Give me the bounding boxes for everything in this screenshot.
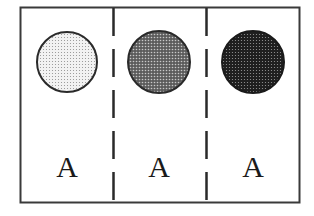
panel-2: A — [128, 31, 190, 183]
circle-dark-shade — [222, 31, 284, 93]
panel-3-label: A — [242, 150, 264, 183]
three-panel-diagram: A A A — [0, 0, 314, 216]
panel-1: A — [37, 32, 97, 183]
panel-2-label: A — [148, 150, 170, 183]
panel-1-label: A — [56, 150, 78, 183]
circle-light-shade — [37, 32, 97, 92]
circle-medium-shade — [128, 31, 190, 93]
panel-3: A — [222, 31, 284, 183]
